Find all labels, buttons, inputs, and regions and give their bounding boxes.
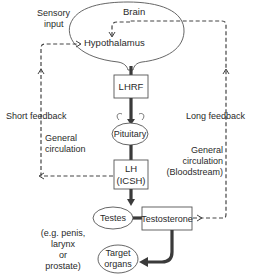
general-circulation-right-3: (Bloodstream)	[166, 167, 223, 177]
testosterone-label: Testosterone	[141, 214, 193, 224]
testosterone-to-target-arrow	[146, 230, 172, 262]
examples-label-4: prostate)	[45, 261, 81, 271]
sensory-input-label-2: input	[44, 19, 64, 29]
general-circulation-left-2: circulation	[45, 144, 86, 154]
short-feedback-loop	[41, 44, 113, 176]
pituitary-curl-left	[117, 113, 122, 120]
target-organs-label-2: organs	[104, 259, 132, 269]
hypothalamus-label: Hypothalamus	[84, 37, 145, 48]
short-feedback-label: Short feedback	[6, 111, 67, 121]
sensory-input-label-1: Sensory	[37, 8, 71, 18]
examples-label-3: or	[59, 250, 67, 260]
lh-label-1: LH	[125, 163, 137, 174]
lhrf-label: LHRF	[119, 81, 144, 92]
pituitary-curl-right	[139, 113, 144, 120]
general-circulation-left-1: General	[45, 133, 77, 143]
examples-label-2: larynx	[51, 239, 76, 249]
examples-label-1: (e.g. penis,	[41, 228, 86, 238]
arrowhead-icon	[139, 257, 148, 267]
target-organs-label-1: Target	[105, 248, 131, 258]
pituitary-label: Pituitary	[114, 129, 147, 139]
lh-label-2: (ICSH)	[116, 175, 145, 186]
arrowhead-icon	[127, 199, 135, 206]
long-feedback-label: Long feedback	[186, 111, 246, 121]
general-circulation-right-1: General	[191, 145, 223, 155]
feedback-diagram: Brain Hypothalamus Sensory input LHRF Pi…	[0, 0, 259, 280]
testes-label: Testes	[100, 213, 127, 223]
general-circulation-right-2: circulation	[182, 156, 223, 166]
brain-label: Brain	[123, 6, 145, 17]
